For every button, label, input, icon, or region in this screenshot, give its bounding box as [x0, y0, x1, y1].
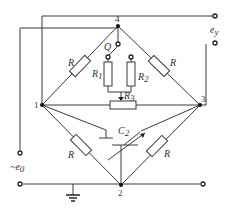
resistor-r1: R1	[91, 59, 112, 92]
ground-icon	[66, 195, 80, 201]
svg-text:2: 2	[118, 188, 123, 198]
node-1	[40, 103, 44, 107]
resistor-r-top-right: R	[148, 55, 176, 76]
svg-text:R: R	[67, 149, 74, 160]
potentiometer-r3: R3	[108, 90, 136, 109]
bottom-right-terminal[interactable]	[201, 182, 205, 186]
svg-text:R: R	[67, 57, 74, 68]
node-4	[116, 24, 120, 28]
svg-text:R1: R1	[91, 68, 103, 81]
svg-text:C2: C2	[118, 125, 130, 138]
svg-text:1: 1	[34, 100, 39, 110]
node-2	[119, 183, 123, 187]
input-terminals[interactable]: ~e0	[10, 151, 25, 186]
svg-text:R2: R2	[137, 71, 149, 84]
svg-text:Q: Q	[104, 41, 112, 52]
resistor-r-top-left: R	[67, 55, 91, 76]
variable-capacitor-c2: C2	[42, 105, 200, 185]
resistor-r2: R2	[127, 55, 149, 92]
resistor-r-bottom-left: R	[67, 134, 92, 160]
switch-q: Q	[104, 26, 120, 59]
bridge-circuit-diagram: R R R R Q R1 R2 R3	[0, 0, 232, 214]
svg-text:ey: ey	[210, 24, 218, 37]
svg-text:~e0: ~e0	[10, 161, 25, 174]
output-terminals[interactable]: ey	[210, 14, 218, 45]
svg-text:R: R	[163, 148, 170, 159]
svg-text:R: R	[169, 57, 176, 68]
svg-text:3: 3	[201, 94, 206, 104]
svg-text:4: 4	[115, 14, 120, 24]
